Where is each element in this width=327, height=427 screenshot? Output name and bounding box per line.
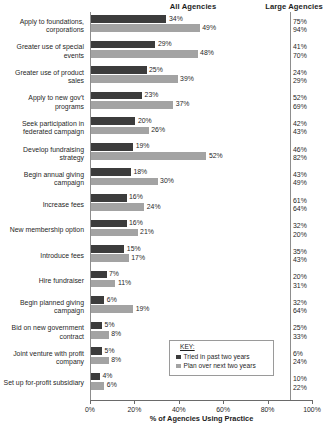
bar-tried [91,322,102,330]
category-label: Introduce fees [2,252,84,260]
bar-value-tried: 5% [102,321,114,328]
bar-tried [91,143,133,151]
table-row: New membership option16%21%32%20% [0,217,327,243]
bar-value-plan: 21% [138,228,154,235]
bar-value-plan: 52% [206,152,222,159]
large-agencies-tried-value: 42% [293,120,325,128]
large-agencies-plan-value: 29% [293,77,325,85]
column-header-all-agencies: All Agencies [118,2,268,11]
x-axis-tick-label: 100% [292,406,327,413]
large-agencies-plan-value: 43% [293,128,325,136]
table-row: Apply to foundations, corporations34%49%… [0,13,327,39]
x-axis-label: % of Agencies Using Practice [90,414,313,423]
large-agencies-values: 61%64% [293,196,325,213]
x-axis-tick [312,400,313,404]
large-agencies-tried-value: 46% [293,145,325,153]
bar-tried [91,373,100,381]
large-agencies-plan-value: 82% [293,154,325,162]
category-label: Hire fundraiser [2,277,84,285]
bar-value-plan: 8% [109,356,121,363]
large-agencies-tried-value: 32% [293,222,325,230]
legend-item-plan: Plan over next two years [176,362,256,369]
large-agencies-tried-value: 75% [293,17,325,25]
bar-value-tried: 16% [127,193,143,200]
bar-group: 18%30% [91,168,313,189]
large-agencies-values: 42%43% [293,120,325,137]
bar-value-plan: 8% [109,330,121,337]
bar-value-tried: 29% [155,40,171,47]
large-agencies-tried-value: 25% [293,324,325,332]
large-agencies-values: 35%43% [293,247,325,264]
bar-group: 4%6% [91,373,313,394]
large-agencies-plan-value: 49% [293,179,325,187]
large-agencies-values: 46%82% [293,145,325,162]
bar-value-plan: 30% [158,177,174,184]
table-row: Begin annual giving campaign18%30%43%49% [0,166,327,192]
plot-area: Apply to foundations, corporations34%49%… [0,12,327,400]
large-agencies-tried-value: 61% [293,196,325,204]
bar-value-tried: 6% [104,296,116,303]
bar-plan [91,382,104,390]
bar-plan [91,305,133,313]
bar-group: 15%17% [91,245,313,266]
bar-plan [91,280,115,288]
large-agencies-tried-value: 41% [293,43,325,51]
large-agencies-tried-value: 43% [293,171,325,179]
bar-value-tried: 34% [166,15,182,22]
bar-value-tried: 4% [100,372,112,379]
bar-tried [91,15,166,23]
x-axis-tick-label: 20% [114,406,154,413]
category-label: Set up for-profit subsidiary [2,379,84,387]
category-label: Bid on new government contract [2,324,84,340]
x-axis-tick-label: 40% [159,406,199,413]
x-axis-line [90,400,313,401]
x-axis-tick [223,400,224,404]
bar-plan [91,101,173,109]
bar-group: 16%24% [91,194,313,215]
bar-plan [91,50,198,58]
bar-plan [91,75,178,83]
bar-tried [91,92,142,100]
bar-tried [91,168,131,176]
large-agencies-tried-value: 32% [293,298,325,306]
bar-value-tried: 20% [135,117,151,124]
bar-group: 7%11% [91,271,313,292]
bar-tried [91,245,124,253]
category-label: Begin planned giving campaign [2,299,84,315]
bar-value-plan: 48% [198,49,214,56]
bar-plan [91,229,138,237]
bar-value-plan: 11% [115,279,131,286]
bar-value-tried: 5% [102,347,114,354]
large-agencies-values: 32%20% [293,222,325,239]
legend-item-tried: Tried in past two years [176,353,250,360]
column-header-large-agencies: Large Agencies [262,2,326,11]
category-label: Apply to new gov't programs [2,94,84,110]
large-agencies-plan-value: 43% [293,256,325,264]
table-row: Develop fundraising strategy19%52%46%82% [0,141,327,167]
large-agencies-plan-value: 69% [293,102,325,110]
bar-group: 23%37% [91,92,313,113]
bar-tried [91,220,127,228]
category-label: Seek participation in federated campaign [2,120,84,136]
category-label: Greater use of special events [2,43,84,59]
large-agencies-plan-value: 20% [293,230,325,238]
large-agencies-plan-value: 64% [293,205,325,213]
bar-group: 6%19% [91,296,313,317]
large-agencies-values: 32%64% [293,298,325,315]
bar-plan [91,203,144,211]
bar-tried [91,117,135,125]
bar-value-plan: 26% [149,126,165,133]
large-agencies-plan-value: 22% [293,383,325,391]
category-label: Apply to foundations, corporations [2,18,84,34]
large-agencies-tried-value: 52% [293,94,325,102]
bar-plan [91,178,158,186]
category-label: Increase fees [2,201,84,209]
table-row: Hire fundraiser7%11%20%31% [0,269,327,295]
large-agencies-values: 24%29% [293,68,325,85]
bar-value-tried: 25% [147,66,163,73]
x-axis-tick-label: 0% [70,406,110,413]
large-agencies-values: 43%49% [293,171,325,188]
bar-tried [91,66,147,74]
large-agencies-values: 6%24% [293,350,325,367]
table-row: Greater use of special events29%48%41%70… [0,39,327,65]
